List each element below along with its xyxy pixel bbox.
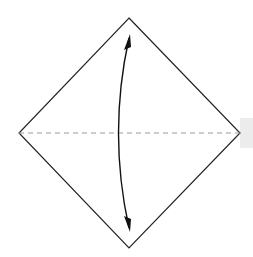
fold-diagram xyxy=(0,0,253,257)
